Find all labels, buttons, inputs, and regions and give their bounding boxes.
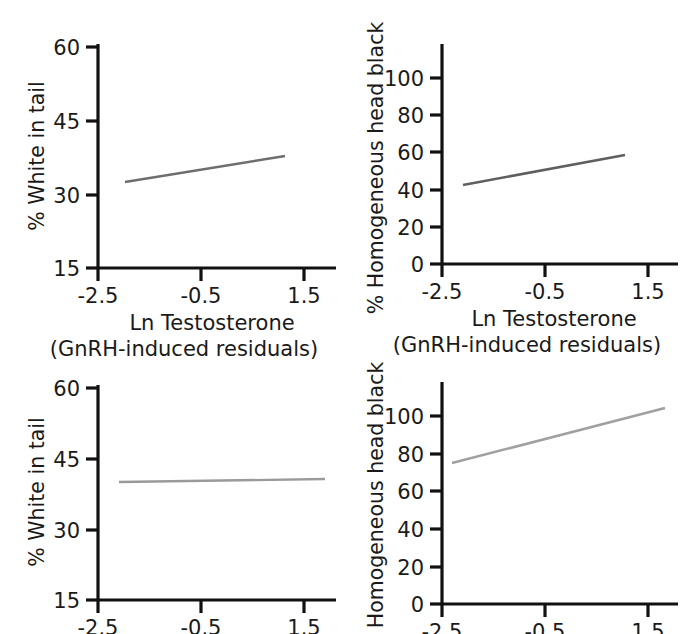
y-tick-label-0: 0 (411, 253, 424, 277)
x-tick-label-1-5: 1.5 (631, 620, 664, 634)
trend-line (125, 156, 285, 182)
x-axis-title-line1: Ln Testosterone (471, 307, 636, 331)
y-tick-label-45: 45 (53, 110, 80, 134)
panel-top-left: 60 45 30 15 -2.5 -0.5 1.5 % White in tai… (0, 0, 343, 360)
x-tick-label-neg0-5: -0.5 (525, 280, 566, 304)
x-tick-label-neg2-5: -2.5 (78, 616, 119, 634)
y-tick-label-60: 60 (397, 480, 424, 504)
y-axis-title: % White in tail (25, 417, 49, 566)
x-axis-title-line2: (GnRH-induced residuals) (393, 333, 661, 357)
figure-canvas: 60 45 30 15 -2.5 -0.5 1.5 % White in tai… (0, 0, 685, 634)
x-tick-label-1-5: 1.5 (287, 616, 320, 634)
y-tick-label-0: 0 (411, 593, 424, 617)
x-tick-label-neg0-5: -0.5 (181, 616, 222, 634)
y-axis-title: % Homogeneous head black (364, 362, 388, 634)
y-tick-label-40: 40 (397, 179, 424, 203)
y-tick-label-40: 40 (397, 518, 424, 542)
x-tick-label-neg2-5: -2.5 (422, 280, 463, 304)
x-tick-label-1-5: 1.5 (631, 280, 664, 304)
trend-line (452, 408, 665, 463)
x-tick-label-1-5: 1.5 (287, 284, 320, 308)
panel-bottom-right: 100 80 60 40 20 0 -2.5 -0.5 1.5 % Homoge… (343, 360, 685, 634)
y-tick-label-45: 45 (53, 448, 80, 472)
y-tick-label-80: 80 (397, 104, 424, 128)
y-tick-label-80: 80 (397, 443, 424, 467)
y-tick-label-20: 20 (397, 216, 424, 240)
trend-line (463, 155, 625, 185)
y-axis-title: % White in tail (25, 81, 49, 230)
panel-top-right: 100 80 60 40 20 0 -2.5 -0.5 1.5 % Homoge… (343, 0, 685, 360)
trend-line (119, 479, 325, 482)
y-tick-label-20: 20 (397, 556, 424, 580)
x-tick-label-neg2-5: -2.5 (78, 284, 119, 308)
y-tick-label-15: 15 (53, 589, 80, 613)
y-tick-label-60: 60 (397, 141, 424, 165)
x-axis-title-line1: Ln Testosterone (129, 311, 294, 335)
y-tick-label-30: 30 (53, 184, 80, 208)
panel-bottom-left: 60 45 30 15 -2.5 -0.5 1.5 % White in tai… (0, 360, 343, 634)
y-tick-label-30: 30 (53, 519, 80, 543)
x-axis-title-line2: (GnRH-induced residuals) (50, 337, 318, 361)
y-tick-label-15: 15 (53, 257, 80, 281)
x-tick-label-neg0-5: -0.5 (181, 284, 222, 308)
y-axis-title: % Homogeneous head black (364, 22, 388, 315)
y-tick-label-60: 60 (53, 377, 80, 401)
y-tick-label-60: 60 (53, 36, 80, 60)
x-tick-label-neg2-5: -2.5 (422, 620, 463, 634)
y-tick-label-100: 100 (384, 405, 424, 429)
y-tick-label-100: 100 (384, 67, 424, 91)
x-tick-label-neg0-5: -0.5 (525, 620, 566, 634)
